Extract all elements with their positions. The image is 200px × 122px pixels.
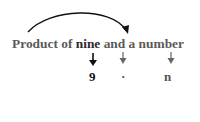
term-multiply-dot: · [121,69,125,85]
phrase-highlight-nine: nine [76,36,101,51]
curved-arrow-icon [28,13,126,32]
verbal-phrase: Product of nine and a number [12,36,184,52]
down-arrow-nine-icon [89,53,97,66]
down-arrow-number-icon [168,52,175,64]
arrows-layer [0,0,200,122]
phrase-prefix: Product of [12,36,76,51]
phrase-translation-diagram: Product of nine and a number 9 · n [0,0,200,122]
term-nine: 9 [89,69,96,85]
phrase-suffix: and a number [100,36,184,51]
down-arrow-and-icon [120,52,127,64]
term-variable-n: n [164,69,171,85]
